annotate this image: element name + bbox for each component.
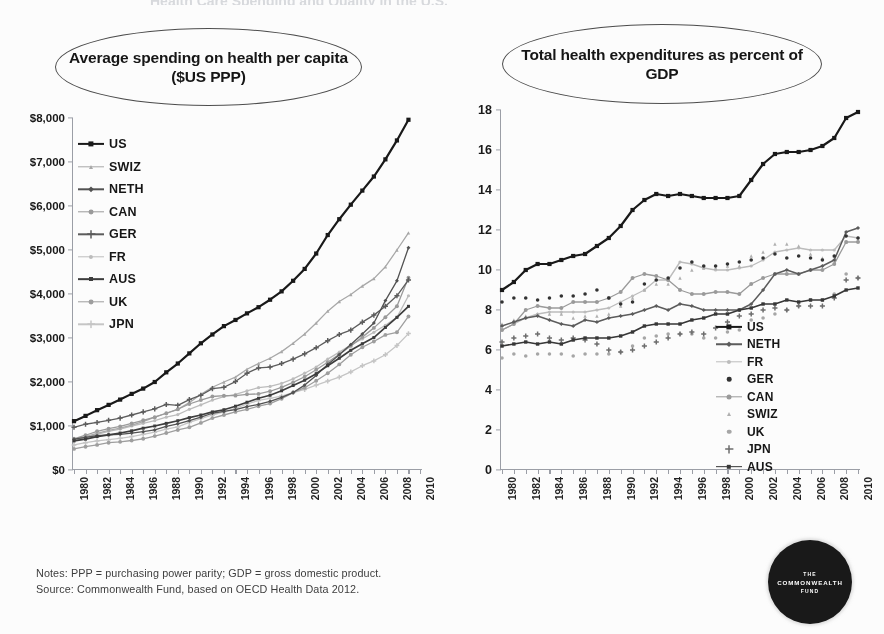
- chart-title-gdp: Total health expenditures as percent of …: [503, 45, 821, 84]
- legend-label: GER: [109, 227, 137, 241]
- x-tick-label: 1998: [720, 477, 732, 500]
- y-tick-mark: [68, 161, 73, 162]
- legend-item-ger[interactable]: GER: [716, 371, 780, 389]
- legend-label: SWIZ: [109, 160, 141, 174]
- series-fr: [500, 234, 859, 331]
- chart-title-oval-spending: Average spending on health per capita ($…: [55, 28, 362, 106]
- x-tick-label: 2008: [838, 477, 850, 500]
- chart-title-spending: Average spending on health per capita ($…: [56, 48, 361, 87]
- legend-spending: USSWIZNETHCANGERFRAUSUKJPN: [78, 133, 144, 336]
- legend-item-us[interactable]: US: [716, 318, 780, 336]
- legend-marker-fr-icon: [78, 251, 104, 263]
- series-ger: [500, 234, 860, 306]
- x-tick-label: 1986: [147, 477, 159, 500]
- x-tick-mark: [573, 470, 574, 475]
- y-tick-label: 4: [485, 383, 492, 397]
- x-tick-label: 1990: [193, 477, 205, 500]
- chart-title-oval-gdp: Total health expenditures as percent of …: [502, 24, 822, 104]
- x-tick-label: 1982: [530, 477, 542, 500]
- x-tick-label: 1980: [506, 477, 518, 500]
- x-tick-label: 2000: [743, 477, 755, 500]
- legend-item-us[interactable]: US: [78, 133, 144, 156]
- x-tick-mark: [597, 470, 598, 475]
- x-tick-label: 2004: [355, 477, 367, 500]
- x-tick-mark: [339, 470, 340, 475]
- legend-item-can[interactable]: CAN: [78, 201, 144, 224]
- x-tick-label: 2006: [815, 477, 827, 500]
- y-tick-label: 2: [485, 423, 492, 437]
- legend-item-fr[interactable]: FR: [716, 353, 780, 371]
- legend-item-uk[interactable]: UK: [716, 423, 780, 441]
- legend-label: CAN: [747, 390, 774, 404]
- y-tick-label: $6,000: [30, 200, 65, 212]
- x-tick-label: 2000: [309, 477, 321, 500]
- legend-item-fr[interactable]: FR: [78, 246, 144, 269]
- y-tick-mark: [496, 429, 501, 430]
- y-tick-label: $3,000: [30, 332, 65, 344]
- legend-marker-aus-icon: [78, 273, 104, 285]
- x-tick-mark: [305, 470, 306, 475]
- x-tick-mark: [155, 470, 156, 475]
- legend-item-swiz[interactable]: SWIZ: [78, 156, 144, 179]
- x-tick-mark: [247, 470, 248, 475]
- x-tick-mark: [561, 470, 562, 475]
- legend-marker-uk-icon: [78, 296, 104, 308]
- legend-label: JPN: [109, 317, 134, 331]
- x-tick-label: 1984: [553, 477, 565, 500]
- x-tick-mark: [834, 470, 835, 475]
- x-tick-mark: [201, 470, 202, 475]
- legend-item-jpn[interactable]: JPN: [78, 313, 144, 336]
- legend-label: US: [747, 320, 764, 334]
- legend-label: GER: [747, 372, 774, 386]
- legend-item-ger[interactable]: GER: [78, 223, 144, 246]
- x-tick-label: 2008: [401, 477, 413, 500]
- legend-marker-aus-icon: [716, 461, 742, 473]
- legend-item-aus[interactable]: AUS: [716, 458, 780, 476]
- x-tick-mark: [316, 470, 317, 475]
- y-tick-label: 6: [485, 343, 492, 357]
- legend-marker-swiz-icon: [78, 161, 104, 173]
- y-tick-label: 14: [478, 183, 492, 197]
- x-tick-mark: [109, 470, 110, 475]
- y-tick-mark: [68, 205, 73, 206]
- legend-marker-fr-icon: [716, 356, 742, 368]
- y-tick-label: $8,000: [30, 112, 65, 124]
- x-tick-mark: [374, 470, 375, 475]
- y-tick-label: $0: [52, 464, 65, 476]
- y-tick-mark: [68, 425, 73, 426]
- y-tick-label: 10: [478, 263, 492, 277]
- x-tick-mark: [270, 470, 271, 475]
- x-tick-mark: [259, 470, 260, 475]
- legend-marker-us-icon: [78, 138, 104, 150]
- x-tick-mark: [282, 470, 283, 475]
- footnote-source: Source: Commonwealth Fund, based on OECD…: [36, 582, 381, 598]
- x-tick-mark: [633, 470, 634, 475]
- x-tick-label: 2002: [332, 477, 344, 500]
- legend-item-can[interactable]: CAN: [716, 388, 780, 406]
- y-tick-mark: [496, 189, 501, 190]
- x-tick-mark: [189, 470, 190, 475]
- x-tick-mark: [799, 470, 800, 475]
- legend-marker-ger-icon: [78, 228, 104, 240]
- legend-item-swiz[interactable]: SWIZ: [716, 406, 780, 424]
- y-tick-label: 16: [478, 143, 492, 157]
- legend-item-neth[interactable]: NETH: [716, 336, 780, 354]
- y-tick-mark: [496, 469, 501, 470]
- x-tick-mark: [224, 470, 225, 475]
- y-tick-mark: [496, 269, 501, 270]
- legend-item-jpn[interactable]: JPN: [716, 441, 780, 459]
- y-tick-mark: [496, 149, 501, 150]
- legend-marker-neth-icon: [716, 338, 742, 350]
- legend-item-uk[interactable]: UK: [78, 291, 144, 314]
- y-tick-label: $7,000: [30, 156, 65, 168]
- legend-item-neth[interactable]: NETH: [78, 178, 144, 201]
- legend-item-aus[interactable]: AUS: [78, 268, 144, 291]
- commonwealth-fund-logo: THE COMMONWEALTH FUND: [768, 540, 852, 624]
- x-tick-label: 2010: [862, 477, 874, 500]
- x-tick-label: 1984: [124, 477, 136, 500]
- y-tick-mark: [496, 109, 501, 110]
- x-tick-mark: [846, 470, 847, 475]
- x-tick-label: 1996: [263, 477, 275, 500]
- x-tick-mark: [656, 470, 657, 475]
- y-tick-label: 12: [478, 223, 492, 237]
